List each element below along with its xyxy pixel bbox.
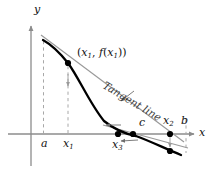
point-label-comma: ,	[92, 46, 99, 59]
tick-label-x2: x2	[163, 115, 174, 128]
point-x1-fx1	[65, 60, 71, 66]
tick-label-x3-subscript: 3	[118, 144, 122, 152]
tick-label-x2-subscript: 2	[169, 120, 173, 128]
tick-label-a: a	[41, 138, 48, 149]
tick-label-x1-subscript: 1	[69, 143, 73, 151]
point-label-x1-fx1: (x1, f(x1))	[77, 47, 127, 60]
tick-label-b: b	[181, 115, 188, 126]
point-label-c: c	[139, 117, 145, 128]
point-x2	[167, 131, 173, 137]
tick-label-x3: x3	[112, 139, 123, 152]
tick-label-x1: x1	[63, 138, 74, 151]
point-fx2	[167, 148, 173, 154]
point-x3	[115, 131, 121, 137]
math-figure: y x a x1 x2 x3 b c (x1, f(x1)) Tangent l…	[0, 0, 214, 176]
y-axis-label: y	[34, 4, 40, 15]
point-label-close-parens: ))	[118, 46, 127, 59]
x3-advance-arrow	[121, 140, 138, 141]
point-c	[130, 131, 136, 137]
x-axis-label: x	[199, 127, 205, 138]
